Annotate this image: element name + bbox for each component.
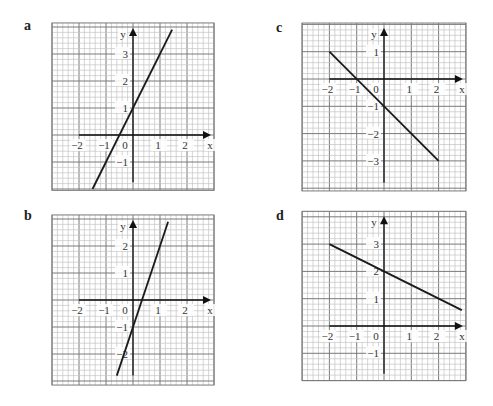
svg-text:1: 1 <box>407 330 413 342</box>
svg-text:1: 1 <box>374 293 380 305</box>
svg-text:0: 0 <box>373 330 379 342</box>
x-axis-arrow-icon <box>455 322 463 330</box>
svg-text:y: y <box>371 216 377 228</box>
svg-text:3: 3 <box>374 238 380 250</box>
y-axis-arrow-icon <box>380 216 388 224</box>
svg-text:−1: −1 <box>367 347 379 359</box>
svg-text:x: x <box>459 330 465 342</box>
svg-text:−2: −2 <box>322 330 334 342</box>
graph-d: −2−1120x321−1y <box>0 0 493 406</box>
svg-text:2: 2 <box>434 330 440 342</box>
svg-text:−1: −1 <box>349 330 361 342</box>
axes <box>329 216 463 373</box>
